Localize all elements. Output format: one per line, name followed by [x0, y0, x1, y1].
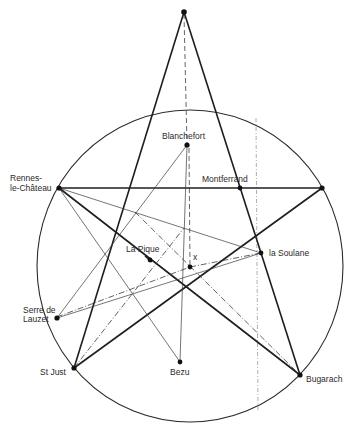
line-apex-bugarach: [184, 12, 300, 375]
point-apex: [181, 9, 187, 15]
line-stjust-right: [74, 188, 322, 368]
vertical-dashed-guide: [256, 118, 258, 412]
point-rennes-le-chateau: [56, 185, 61, 190]
label-rennes-line1: Rennes-: [10, 173, 42, 183]
label-rennes-line2: le-Château: [10, 183, 52, 193]
point-bezu: [178, 360, 183, 365]
label-la-pique: La Pique: [126, 244, 160, 254]
apex-meridian-dashed: [184, 14, 187, 145]
label-x: x: [193, 252, 198, 262]
label-bezu: Bezu: [170, 367, 190, 377]
label-blanchefort: Blanchefort: [162, 131, 206, 141]
label-st-just: St Just: [40, 367, 67, 377]
blanchefort-x-dashed: [189, 148, 190, 266]
point-x: [188, 265, 193, 270]
point-montferrand: [238, 186, 243, 191]
line-blanchefort-serre: [57, 145, 187, 318]
point-serre-de-lauzet: [54, 315, 59, 320]
line-rennes-soulane: [59, 188, 261, 253]
line-apex-stjust: [74, 12, 184, 368]
pentagram-diagram: Blanchefort Rennes- le-Château Montferra…: [0, 0, 355, 429]
line-rennes-bugarach: [59, 188, 300, 375]
line-blanchefort-bezu: [180, 145, 187, 362]
label-la-soulane: la Soulane: [269, 248, 309, 258]
point-right: [319, 185, 324, 190]
line-serre-soulane: [57, 253, 261, 318]
point-la-pique: [148, 258, 153, 263]
label-serre-line2: Lauzet: [23, 314, 49, 324]
label-montferrand: Montferrand: [202, 174, 248, 184]
line-x-soulane-dashed: [190, 253, 261, 267]
point-la-soulane: [259, 251, 264, 256]
label-bugarach: Bugarach: [306, 374, 343, 384]
point-blanchefort: [184, 142, 189, 147]
point-st-just: [71, 365, 76, 370]
point-bugarach: [297, 372, 302, 377]
